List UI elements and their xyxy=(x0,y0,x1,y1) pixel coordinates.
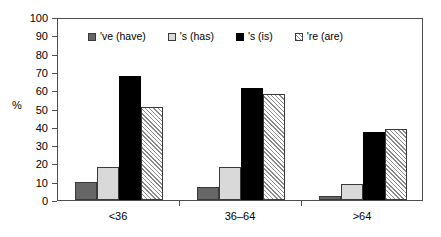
bar xyxy=(319,196,341,200)
legend-item: 're (are) xyxy=(295,31,343,42)
legend-swatch-icon xyxy=(236,33,244,41)
bar-group xyxy=(75,19,163,200)
legend-swatch-icon xyxy=(295,33,303,41)
bar-group xyxy=(197,19,285,200)
bar xyxy=(75,182,97,200)
y-axis-tick-label: 40 xyxy=(14,123,48,134)
y-axis-tick-label: 70 xyxy=(14,68,48,79)
legend-label: 's (is) xyxy=(248,31,273,42)
y-axis-tick-label: 0 xyxy=(14,196,48,207)
y-axis-tick-label: 20 xyxy=(14,159,48,170)
bar xyxy=(97,167,119,200)
y-axis-tick-label: 30 xyxy=(14,141,48,152)
bar xyxy=(363,132,385,200)
bar-group xyxy=(319,19,407,200)
legend-swatch-icon xyxy=(88,33,96,41)
legend-label: 's (has) xyxy=(180,31,214,42)
y-axis-tick-label: 90 xyxy=(14,31,48,42)
legend-swatch-icon xyxy=(168,33,176,41)
x-axis-tick-mark xyxy=(179,201,180,206)
bar xyxy=(241,88,263,200)
x-axis-category-label: <36 xyxy=(57,210,179,222)
legend-label: 're (are) xyxy=(307,31,343,42)
bar xyxy=(219,167,241,200)
legend-item: 's (is) xyxy=(236,31,273,42)
bars-layer xyxy=(58,19,422,200)
bar xyxy=(119,76,141,200)
bar xyxy=(141,107,163,200)
y-axis-tick-label: 10 xyxy=(14,178,48,189)
x-axis-tick-mark xyxy=(301,201,302,206)
bar xyxy=(341,184,363,200)
y-axis-tick-label: 60 xyxy=(14,86,48,97)
y-axis-tick-label: 50 xyxy=(14,105,48,116)
legend-item: 's (has) xyxy=(168,31,214,42)
x-axis-category-label: 36–64 xyxy=(179,210,301,222)
legend-item: 've (have) xyxy=(88,31,146,42)
x-axis-category-label: >64 xyxy=(301,210,423,222)
bar xyxy=(263,94,285,200)
chart-legend: 've (have)'s (has)'s (is)'re (are) xyxy=(88,31,343,42)
y-axis-tick-label: 100 xyxy=(14,13,48,24)
bar xyxy=(197,187,219,200)
y-axis-tick-label: 80 xyxy=(14,50,48,61)
bar xyxy=(385,129,407,200)
plot-area xyxy=(57,18,423,201)
bar-chart: % 1009080706050403020100 <3636–64>64 've… xyxy=(0,0,441,237)
legend-label: 've (have) xyxy=(100,31,146,42)
y-axis-tick-mark xyxy=(52,201,57,202)
